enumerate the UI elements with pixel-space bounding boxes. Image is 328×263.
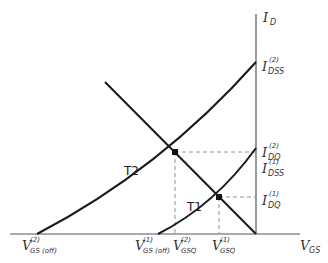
svg-text:DQ: DQ — [268, 201, 280, 210]
svg-text:I: I — [262, 10, 269, 25]
svg-text:(2): (2) — [269, 56, 279, 64]
y-axis-label: I D — [262, 10, 276, 27]
svg-text:(1): (1) — [269, 158, 279, 166]
x-axis-label: V GS — [300, 238, 320, 255]
svg-text:DSS: DSS — [268, 169, 284, 178]
svg-text:GS: GS — [309, 246, 320, 255]
label-vgsq-1: V (1) GSQ — [212, 236, 236, 255]
curve-t2 — [37, 62, 256, 234]
bias-load-line — [105, 82, 256, 234]
svg-text:GS (off): GS (off) — [143, 247, 170, 255]
svg-text:(1): (1) — [143, 236, 153, 244]
svg-text:(2): (2) — [30, 236, 40, 244]
svg-text:I: I — [261, 161, 268, 176]
curve-label-t2: T2 — [123, 164, 139, 178]
curve-label-t1: T1 — [186, 200, 202, 214]
svg-text:GSQ: GSQ — [181, 247, 197, 255]
svg-text:(1): (1) — [269, 190, 279, 198]
svg-text:I: I — [261, 145, 268, 160]
svg-text:(2): (2) — [181, 236, 191, 244]
jfet-bias-diagram: T2 T1 I D V GS I (2) DSS I (2) DQ I (1) … — [0, 0, 328, 263]
svg-text:(2): (2) — [269, 142, 279, 150]
label-idss-2: I (2) DSS — [261, 56, 284, 76]
q-point-1 — [216, 194, 222, 200]
svg-text:GS (off): GS (off) — [30, 247, 57, 255]
label-vgsoff-2: V (2) GS (off) — [22, 236, 57, 255]
label-vgsoff-1: V (1) GS (off) — [135, 236, 170, 255]
label-idq-1: I (1) DQ — [261, 190, 280, 210]
svg-text:I: I — [261, 59, 268, 74]
q-point-2 — [172, 149, 178, 155]
svg-text:D: D — [270, 18, 276, 27]
curve-t1 — [158, 148, 256, 234]
svg-text:GSQ: GSQ — [220, 247, 236, 255]
label-idss-1: I (1) DSS — [261, 158, 284, 178]
label-vgsq-2: V (2) GSQ — [173, 236, 197, 255]
svg-text:I: I — [261, 193, 268, 208]
svg-text:(1): (1) — [220, 236, 230, 244]
svg-text:DSS: DSS — [268, 67, 284, 76]
